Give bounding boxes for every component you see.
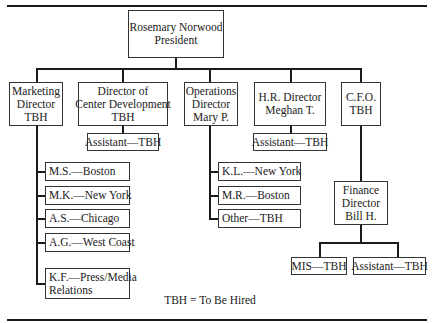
connector: [36, 68, 361, 70]
director-line: H.R. Director: [259, 91, 322, 104]
connector: [209, 195, 218, 197]
connector: [360, 68, 362, 82]
connector: [122, 68, 124, 82]
connector: [36, 195, 45, 197]
connector: [397, 242, 399, 257]
staff-label: Relations: [49, 284, 92, 297]
finance-assistant-box: Assistant—TBH: [353, 257, 426, 275]
director-line: Center Development: [75, 98, 170, 111]
staff-label: M.K.—New York: [49, 189, 131, 202]
marketing-director-box: Marketing Director TBH: [9, 82, 63, 126]
finance-line: Bill H.: [345, 210, 376, 223]
director-line: Meghan T.: [265, 104, 314, 117]
director-line: Mary P.: [193, 111, 229, 124]
director-line: TBH: [350, 104, 373, 117]
operations-staff-box: K.L.—New York: [218, 162, 301, 181]
director-line: Operations: [186, 85, 236, 98]
connector: [36, 218, 45, 220]
hr-director-box: H.R. Director Meghan T.: [254, 82, 326, 126]
hr-assistant-box: Assistant—TBH: [253, 133, 327, 151]
connector: [36, 126, 38, 284]
staff-label: K.L.—New York: [222, 165, 301, 178]
operations-staff-box: Other—TBH: [218, 209, 301, 228]
marketing-staff-box: A.G.—West Coast: [45, 233, 130, 252]
marketing-staff-box: K.F.—Press/Media Relations: [45, 268, 130, 299]
center-development-director-box: Director of Center Development TBH: [78, 82, 168, 126]
connector: [36, 283, 45, 285]
staff-label: MIS—TBH: [292, 260, 347, 273]
connector: [209, 68, 211, 82]
staff-label: M.R.—Boston: [222, 189, 290, 202]
marketing-staff-box: A.S.—Chicago: [45, 209, 130, 228]
connector: [290, 68, 292, 82]
staff-label: Assistant—TBH: [252, 136, 329, 149]
president-name: Rosemary Norwood: [130, 21, 223, 34]
connector: [36, 68, 38, 82]
connector: [360, 225, 362, 242]
staff-label: Assistant—TBH: [85, 136, 162, 149]
director-line: TBH: [112, 111, 135, 124]
staff-label: A.G.—West Coast: [49, 236, 135, 249]
bottom-rule: [7, 319, 427, 321]
director-line: C.F.O.: [346, 91, 376, 104]
marketing-staff-box: M.K.—New York: [45, 186, 130, 205]
marketing-staff-box: M.S.—Boston: [45, 162, 130, 181]
director-line: TBH: [25, 111, 48, 124]
president-box: Rosemary Norwood President: [128, 10, 224, 58]
connector: [209, 218, 218, 220]
director-line: Marketing: [12, 85, 60, 98]
connector: [319, 242, 398, 244]
mis-box: MIS—TBH: [291, 257, 347, 275]
connector: [36, 242, 45, 244]
center-dev-assistant-box: Assistant—TBH: [87, 133, 159, 151]
staff-label: Assistant—TBH: [351, 260, 428, 273]
connector: [319, 242, 321, 257]
staff-label: A.S.—Chicago: [49, 212, 119, 225]
finance-director-box: Finance Director Bill H.: [334, 181, 388, 225]
connector: [209, 126, 211, 219]
connector: [360, 126, 362, 181]
director-line: Director: [17, 98, 55, 111]
connector: [209, 171, 218, 173]
staff-label: M.S.—Boston: [49, 165, 115, 178]
top-rule: [7, 5, 427, 7]
staff-label: Other—TBH: [222, 212, 283, 225]
operations-director-box: Operations Director Mary P.: [184, 82, 238, 126]
connector: [122, 126, 124, 133]
director-line: Director: [192, 98, 230, 111]
legend: TBH = To Be Hired: [150, 294, 270, 306]
connector: [36, 171, 45, 173]
staff-label: K.F.—Press/Media: [49, 271, 137, 284]
cfo-box: C.F.O. TBH: [341, 82, 381, 126]
president-title: President: [155, 34, 198, 47]
finance-line: Finance: [343, 184, 379, 197]
operations-staff-box: M.R.—Boston: [218, 186, 301, 205]
director-line: Director of: [98, 85, 149, 98]
connector: [290, 126, 292, 133]
finance-line: Director: [342, 197, 380, 210]
